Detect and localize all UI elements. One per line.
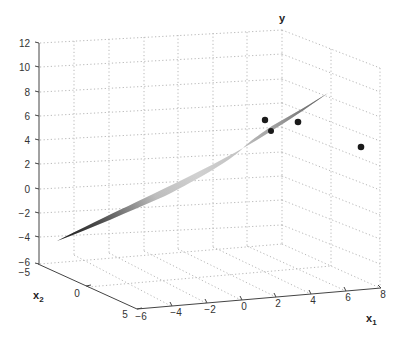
- y-axis: 12 10 8 6 4 2 0 −2 −4 −6 y: [19, 12, 286, 268]
- x1-tick-label: −6: [135, 311, 147, 322]
- y-tick-label: 8: [24, 87, 30, 98]
- data-point: [295, 119, 302, 126]
- x1-tick-label: −4: [170, 307, 182, 318]
- x1-tick-label: 4: [310, 295, 316, 306]
- surface-plot-3d: 12 10 8 6 4 2 0 −2 −4 −6 y −5 0 5 x2 −6 …: [0, 0, 401, 339]
- x2-axis: −5 0 5 x2: [19, 264, 142, 320]
- x1-tick-label: 2: [275, 298, 281, 309]
- x1-tick-label: 6: [345, 292, 351, 303]
- x2-tick-label: 0: [74, 288, 80, 299]
- grid-floor: [40, 244, 346, 306]
- y-tick-label: 4: [24, 135, 30, 146]
- y-tick-label: 12: [19, 38, 31, 49]
- y-axis-label: y: [279, 12, 286, 24]
- grid-back-left-wall: [40, 30, 282, 255]
- x1-tick-label: 0: [241, 301, 247, 312]
- y-tick-label: 6: [24, 111, 30, 122]
- y-tick-label: 10: [19, 62, 31, 73]
- y-tick-label: −2: [19, 208, 31, 219]
- x2-axis-label: x2: [33, 289, 44, 304]
- x1-tick-label: −2: [204, 304, 216, 315]
- grid-back-right-wall: [282, 30, 380, 288]
- y-tick-label: 0: [24, 184, 30, 195]
- data-point: [262, 117, 268, 123]
- x1-axis-label: x1: [366, 312, 377, 327]
- x1-axis: −6 −4 −2 0 2 4 6 8 x1: [135, 285, 386, 327]
- regression-surface: [57, 93, 328, 241]
- data-point: [358, 144, 365, 151]
- data-point: [268, 128, 274, 134]
- y-tick-label: −4: [19, 232, 31, 243]
- x1-tick-label: 8: [380, 289, 386, 300]
- data-points: [262, 117, 365, 151]
- x2-tick-label: −5: [19, 267, 31, 278]
- x2-tick-label: 5: [122, 309, 128, 320]
- y-tick-label: 2: [24, 159, 30, 170]
